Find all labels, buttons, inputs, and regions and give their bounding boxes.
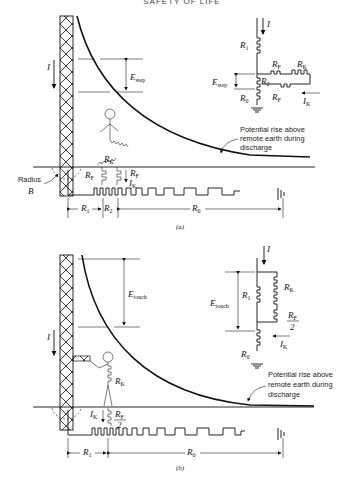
circuit-r1-a: R1 (239, 40, 249, 51)
svg-text:I: I (266, 19, 271, 29)
person-head-b (103, 352, 113, 362)
ik-label-b: IK (89, 409, 98, 420)
figure-a: I Estep Radius B RK RF RF IK (18, 16, 320, 231)
svg-text:RF: RF (271, 92, 282, 103)
svg-text:R2: R2 (260, 76, 270, 87)
rf-left-label-a: RF (84, 170, 95, 181)
svg-text:R1: R1 (241, 290, 251, 301)
caption-a: (a) (176, 223, 185, 231)
body-resistor-rk-b (108, 362, 111, 385)
r0-dimension-a: R0 (191, 203, 201, 214)
grounding-safety-figure: SAFETY OF LIFE I Estep Radius B RK (0, 0, 364, 481)
figure-b: I Etouch RK IK RF 2 R1 R0 (33, 244, 335, 472)
curve-annotation-a: Potential rise above remote earth during… (240, 125, 307, 152)
svg-text:R0: R0 (239, 93, 249, 104)
ground-resistance-ladder-a (68, 170, 240, 195)
svg-text:2: 2 (290, 322, 295, 332)
rk-label-b: RK (114, 376, 126, 387)
caption-b: (b) (176, 464, 185, 472)
current-label-b: I (46, 332, 51, 342)
equivalent-circuit-a: I R1 R2 R0 RF RK RF IK Estep (211, 18, 320, 112)
equivalent-circuit-b: I R1 R0 RK RF 2 IK Etouch (209, 244, 299, 368)
running-head: SAFETY OF LIFE (143, 0, 220, 6)
ik-label-a: IK (128, 178, 137, 189)
person-head-a (105, 109, 115, 119)
svg-text:I: I (266, 244, 271, 254)
curve-annotation-b: Potential rise above remote earth during… (268, 370, 335, 399)
current-label-a: I (46, 62, 51, 72)
r2-dimension-a: R2 (103, 203, 113, 214)
rk-label-a: RK (103, 154, 115, 165)
radius-b-label: B (28, 186, 34, 196)
svg-text:R0: R0 (240, 349, 250, 360)
svg-text:2: 2 (117, 420, 122, 430)
svg-text:RF: RF (287, 310, 298, 321)
svg-text:IK: IK (279, 339, 288, 350)
svg-text:RK: RK (283, 282, 295, 293)
r0-dimension-b: R0 (186, 447, 196, 458)
r1-dimension-a: R1 (80, 203, 90, 214)
tower-lattice-a (60, 16, 73, 196)
svg-text:RK: RK (296, 59, 308, 70)
svg-text:Etouch: Etouch (209, 298, 229, 309)
e-touch-label-b: Etouch (127, 289, 147, 300)
r1-dimension-b: R1 (82, 447, 92, 458)
svg-text:Estep: Estep (211, 77, 227, 88)
svg-text:IK: IK (302, 96, 311, 107)
radius-label: Radius (18, 175, 41, 184)
tower-lattice-b (60, 255, 73, 430)
svg-text:RF: RF (271, 59, 282, 70)
e-step-label-a: Estep (129, 72, 145, 83)
rf-half-label-b: RF (114, 409, 125, 420)
